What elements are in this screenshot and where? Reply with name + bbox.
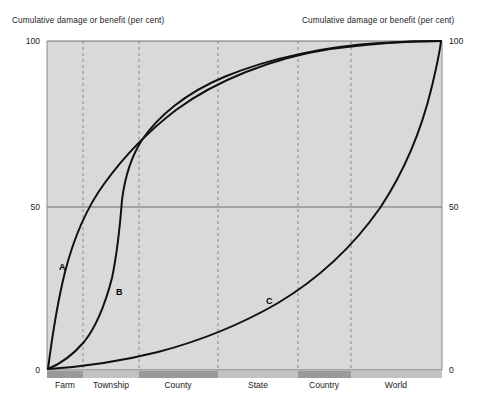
category-band (47, 371, 442, 378)
band-world (351, 371, 442, 378)
x-category-township: Township (93, 380, 129, 390)
plot-canvas (0, 0, 486, 413)
x-category-country: Country (309, 380, 339, 390)
band-state (218, 371, 298, 378)
band-country (298, 371, 351, 378)
y-tick-left-100: 100 (14, 36, 40, 46)
left-axis-title: Cumulative damage or benefit (per cent) (12, 16, 164, 25)
band-township (83, 371, 139, 378)
y-tick-left-0: 0 (14, 365, 40, 375)
right-axis-title: Cumulative damage or benefit (per cent) (302, 16, 454, 25)
y-tick-right-0: 0 (449, 365, 475, 375)
curve-label-c: C (266, 296, 273, 306)
y-tick-left-50: 50 (14, 202, 40, 212)
chart-figure: Cumulative damage or benefit (per cent) … (0, 0, 486, 413)
x-category-world: World (385, 380, 407, 390)
x-category-county: County (164, 380, 191, 390)
x-category-farm: Farm (55, 380, 75, 390)
x-category-state: State (248, 380, 268, 390)
y-tick-right-50: 50 (449, 202, 475, 212)
curve-label-a: A (59, 262, 66, 272)
band-farm (47, 371, 83, 378)
y-tick-right-100: 100 (449, 36, 475, 46)
curve-label-b: B (116, 287, 123, 297)
band-county (139, 371, 218, 378)
